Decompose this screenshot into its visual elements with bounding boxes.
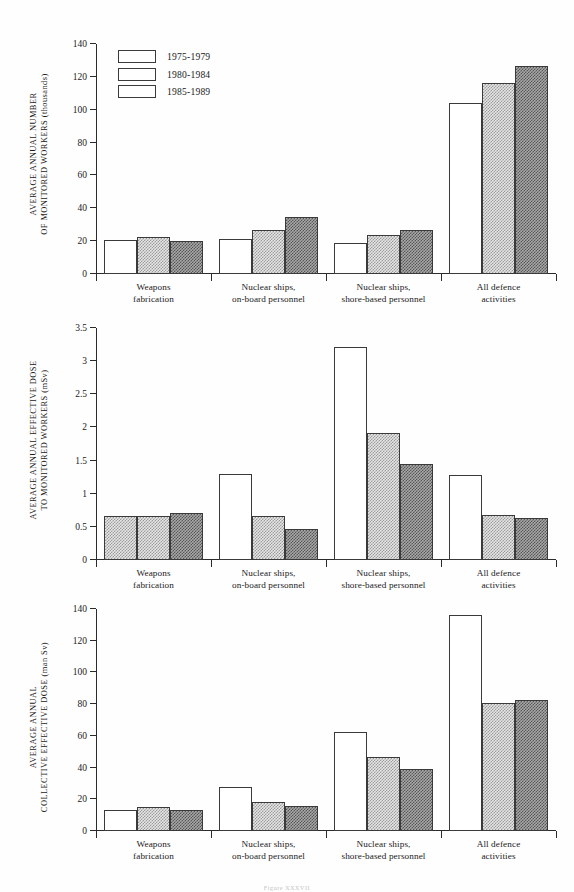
bar-group [326, 328, 441, 560]
bar [285, 529, 318, 560]
category-ticks [96, 274, 556, 281]
y-tick-label: 20 [78, 794, 88, 804]
figure-page: AVERAGE ANNUAL NUMBER OF MONITORED WORKE… [0, 0, 574, 892]
category-label: Nuclear ships, shore-based personnel [326, 568, 441, 591]
category-tick [326, 560, 327, 567]
bar [104, 516, 137, 560]
category-tick [326, 274, 327, 281]
bar [482, 83, 515, 274]
y-tick-label: 60 [78, 731, 88, 741]
category-tick [211, 274, 212, 281]
bar [482, 515, 515, 560]
category-tick [556, 831, 557, 838]
y-axis-title: AVERAGE ANNUAL COLLECTIVE EFFECTIVE DOSE… [22, 603, 56, 851]
category-label: Weapons fabrication [96, 282, 211, 305]
category-labels: Weapons fabricationNuclear ships, on-boa… [96, 282, 556, 305]
bar [515, 700, 548, 831]
category-tick [96, 274, 97, 281]
bar [137, 807, 170, 831]
category-label: Nuclear ships, shore-based personnel [326, 839, 441, 862]
y-tick-label: 100 [73, 667, 87, 677]
legend-swatch-1975-1979 [118, 50, 156, 63]
bar [137, 237, 170, 274]
legend: 1975-1979 1980-1984 1985-1989 [118, 50, 210, 98]
bar [334, 347, 367, 560]
category-tick [211, 560, 212, 567]
bar-groups [96, 328, 556, 560]
bar [252, 802, 285, 831]
bar-groups [96, 609, 556, 831]
category-labels: Weapons fabricationNuclear ships, on-boa… [96, 568, 556, 591]
bar [285, 217, 318, 274]
bar-group [211, 609, 326, 831]
category-label: Weapons fabrication [96, 568, 211, 591]
category-tick [441, 560, 442, 567]
plot-area: 00.511.522.533.5 Weapons fabricationNucl… [96, 328, 556, 560]
category-tick [441, 274, 442, 281]
bar-group [211, 44, 326, 274]
y-tick-label: 0.5 [75, 522, 87, 532]
category-label: Nuclear ships, on-board personnel [211, 839, 326, 862]
category-tick [96, 560, 97, 567]
bar [219, 787, 252, 831]
bar [285, 806, 318, 831]
bar-group [441, 44, 556, 274]
y-tick-label: 40 [78, 763, 88, 773]
bar-group [211, 328, 326, 560]
bar-group [326, 609, 441, 831]
bar [449, 103, 482, 274]
bar [367, 433, 400, 560]
y-tick-label: 140 [73, 604, 87, 614]
legend-item: 1985-1989 [118, 85, 210, 98]
bar [367, 757, 400, 831]
category-ticks [96, 560, 556, 567]
bar-group [441, 609, 556, 831]
bar [170, 810, 203, 831]
bar [400, 230, 433, 274]
legend-swatch-1985-1989 [118, 85, 156, 98]
legend-label: 1980-1984 [167, 69, 210, 80]
y-tick-label: 140 [73, 39, 87, 49]
legend-item: 1980-1984 [118, 68, 210, 81]
category-tick [441, 831, 442, 838]
y-tick-label: 2 [82, 422, 87, 432]
bar [515, 66, 548, 274]
y-tick-label: 2.5 [75, 389, 87, 399]
bar-group [326, 44, 441, 274]
y-tick-label: 100 [73, 105, 87, 115]
y-tick-label: 3.5 [75, 323, 87, 333]
y-tick-label: 60 [78, 170, 88, 180]
y-tick-label: 0 [82, 826, 87, 836]
category-tick [96, 831, 97, 838]
bar-group [96, 609, 211, 831]
legend-label: 1985-1989 [167, 86, 210, 97]
bar [400, 464, 433, 560]
category-label: Nuclear ships, on-board personnel [211, 282, 326, 305]
bar [449, 475, 482, 560]
chart-panel-collective-dose: AVERAGE ANNUAL COLLECTIVE EFFECTIVE DOSE… [0, 593, 574, 863]
legend-item: 1975-1979 [118, 50, 210, 63]
legend-label: 1975-1979 [167, 51, 210, 62]
category-label: All defence activities [441, 282, 556, 305]
bar [400, 769, 433, 831]
y-tick-label: 120 [73, 636, 87, 646]
y-tick-label: 40 [78, 203, 88, 213]
category-label: Nuclear ships, on-board personnel [211, 568, 326, 591]
y-tick-label: 0 [82, 555, 87, 565]
category-tick [556, 274, 557, 281]
category-tick [556, 560, 557, 567]
category-label: Weapons fabrication [96, 839, 211, 862]
bar-group [441, 328, 556, 560]
bar [334, 243, 367, 274]
bar [104, 810, 137, 831]
bar [252, 230, 285, 274]
y-axis-title: AVERAGE ANNUAL NUMBER OF MONITORED WORKE… [22, 30, 56, 278]
figure-caption: Figure XXXVII [0, 885, 574, 891]
y-tick-label: 20 [78, 236, 88, 246]
y-tick-label: 120 [73, 72, 87, 82]
bar [449, 615, 482, 831]
bar [515, 518, 548, 560]
legend-swatch-1980-1984 [118, 68, 156, 81]
chart-panel-monitored-workers: AVERAGE ANNUAL NUMBER OF MONITORED WORKE… [0, 14, 574, 306]
y-tick-label: 1 [82, 489, 87, 499]
